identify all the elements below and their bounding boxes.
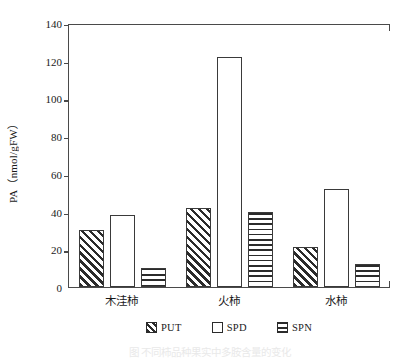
y-axis-tick-mark [64, 214, 69, 215]
legend-swatch-spd-icon [212, 322, 223, 333]
bar-put [79, 230, 104, 287]
y-axis-tick-mark [64, 138, 69, 139]
y-axis-title: PA（nmol/gFW） [4, 100, 22, 220]
legend-swatch-spn-icon [277, 322, 288, 333]
x-axis-category-label: 水柿 [283, 292, 390, 310]
bar-put [293, 247, 318, 287]
bar-spn [355, 264, 380, 287]
plot-area [68, 24, 390, 288]
y-axis-tick-label: 20 [51, 245, 62, 256]
legend-item: PUT [146, 322, 182, 333]
x-axis-category-label-group: 木洼柿火柿水柿 [68, 292, 390, 310]
x-axis-category-label: 火柿 [175, 292, 282, 310]
y-axis-tick-label: 140 [46, 19, 63, 30]
y-axis-tick-mark [64, 100, 69, 101]
y-axis-tick-label: 60 [51, 169, 62, 180]
y-axis-tick-mark [64, 25, 69, 26]
chart-figure: PA（nmol/gFW） 020406080100120140 木洼柿火柿水柿 … [0, 0, 420, 358]
bar-put [186, 208, 211, 287]
bar-series-layer [69, 25, 390, 287]
y-axis-tick-label: 120 [46, 56, 63, 67]
bar-group [283, 25, 390, 287]
y-axis-tick-label: 0 [57, 283, 63, 294]
y-axis-tick-label: 40 [51, 207, 62, 218]
bar-group [69, 25, 176, 287]
bar-group [176, 25, 283, 287]
y-axis-tick-label: 100 [46, 94, 63, 105]
legend-swatch-put-icon [146, 322, 157, 333]
bar-spn [248, 212, 273, 287]
y-axis-tick-mark [64, 176, 69, 177]
legend-label: PUT [161, 322, 182, 333]
y-axis-tick-mark [64, 63, 69, 64]
legend-label: SPN [292, 322, 312, 333]
bar-spd [110, 215, 135, 287]
y-axis-tick-mark [64, 251, 69, 252]
legend-item: SPN [277, 322, 312, 333]
y-axis-tick-label-group: 020406080100120140 [30, 24, 66, 288]
bar-spd [324, 189, 349, 287]
legend-item: SPD [212, 322, 247, 333]
chart-legend: PUTSPDSPN [68, 318, 390, 336]
y-axis-tick-label: 80 [51, 132, 62, 143]
legend-label: SPD [227, 322, 247, 333]
x-axis-category-label: 木洼柿 [68, 292, 175, 310]
bar-spn [141, 268, 166, 287]
bar-spd [217, 57, 242, 287]
figure-caption: 图 不同柿品种果实中多胺含量的变化 [0, 344, 420, 358]
